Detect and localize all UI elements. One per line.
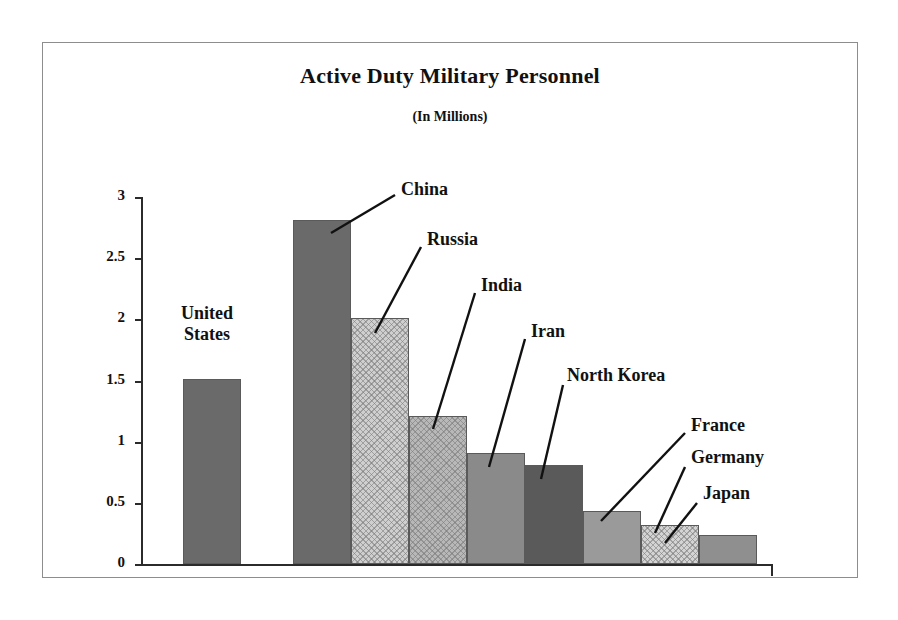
category-label-line: France bbox=[691, 415, 745, 436]
category-label-line: Japan bbox=[703, 483, 750, 504]
y-tick-label: 2 bbox=[79, 309, 125, 326]
category-label-line: North Korea bbox=[567, 365, 665, 386]
category-label-line: Russia bbox=[427, 229, 478, 250]
y-tick-label: 3 bbox=[79, 187, 125, 204]
leader-line bbox=[601, 433, 685, 521]
y-tick-label: 2.5 bbox=[79, 248, 125, 265]
category-label-line: India bbox=[481, 275, 522, 296]
y-tick bbox=[135, 258, 142, 260]
category-label: India bbox=[481, 275, 522, 296]
category-label-line: Germany bbox=[691, 447, 764, 468]
category-label: Japan bbox=[703, 483, 750, 504]
y-tick bbox=[135, 503, 142, 505]
category-label: France bbox=[691, 415, 745, 436]
y-tick bbox=[135, 381, 142, 383]
y-tick-label: 0.5 bbox=[79, 493, 125, 510]
chart-frame: Active Duty Military Personnel (In Milli… bbox=[42, 42, 858, 578]
bar bbox=[699, 535, 757, 564]
category-label-line: Iran bbox=[531, 321, 565, 342]
category-label-line: United bbox=[147, 303, 267, 324]
y-tick bbox=[135, 442, 142, 444]
category-label: UnitedStates bbox=[147, 303, 267, 345]
leader-line bbox=[433, 293, 475, 429]
category-label-line: States bbox=[147, 324, 267, 345]
bar bbox=[183, 379, 241, 564]
bar bbox=[641, 525, 699, 564]
y-tick bbox=[135, 564, 142, 566]
bar bbox=[293, 220, 351, 564]
bar bbox=[351, 318, 409, 564]
y-tick bbox=[135, 319, 142, 321]
y-tick-label: 0 bbox=[79, 554, 125, 571]
y-tick-label: 1 bbox=[79, 432, 125, 449]
bar bbox=[409, 416, 467, 564]
leader-line bbox=[655, 467, 685, 533]
leader-line bbox=[489, 339, 525, 467]
bar bbox=[467, 453, 525, 564]
category-label-line: China bbox=[401, 179, 448, 200]
category-label: North Korea bbox=[567, 365, 665, 386]
category-label: Iran bbox=[531, 321, 565, 342]
bar bbox=[583, 511, 641, 564]
category-label: Russia bbox=[427, 229, 478, 250]
bar bbox=[525, 465, 583, 564]
x-axis-endcap bbox=[771, 564, 773, 576]
category-label: Germany bbox=[691, 447, 764, 468]
category-label: China bbox=[401, 179, 448, 200]
plot-area: 00.511.522.53 UnitedStatesChinaRussiaInd… bbox=[43, 43, 859, 579]
x-axis-line bbox=[141, 564, 771, 566]
y-tick-label: 1.5 bbox=[79, 371, 125, 388]
y-tick bbox=[135, 197, 142, 199]
